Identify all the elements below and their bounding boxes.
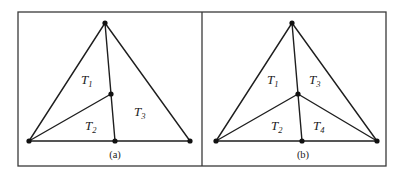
caption-a: (a)	[109, 149, 121, 161]
panel-b: T1 T3 T2 T4 (b)	[213, 20, 379, 161]
edge-apex-interior	[292, 23, 298, 94]
vertex-interior	[108, 91, 113, 96]
label-t1: T1	[267, 72, 278, 89]
edge-left-interior	[29, 94, 111, 141]
triangulation-figure: T1 T2 T3 (a) T1 T3 T2 T4 (b)	[0, 0, 404, 176]
vertex-bottom-mid	[112, 138, 117, 143]
panel-a: T1 T2 T3 (a)	[26, 20, 192, 161]
label-t3: T3	[309, 72, 320, 89]
label-t3: T3	[134, 104, 145, 121]
vertex-apex	[289, 20, 294, 25]
vertex-left	[26, 138, 31, 143]
edge-interior-bottom	[298, 94, 302, 141]
label-t4: T4	[313, 118, 325, 135]
vertex-right	[187, 138, 192, 143]
label-t2: T2	[271, 118, 283, 135]
vertex-interior	[295, 91, 300, 96]
edge-apex-right	[292, 23, 377, 141]
edge-apex-left	[216, 23, 292, 141]
label-t1: T1	[81, 72, 92, 89]
label-t2: T2	[85, 118, 97, 135]
edge-interior-right	[298, 94, 377, 141]
vertex-right	[374, 138, 379, 143]
edge-interior-bottom	[111, 94, 115, 141]
vertex-bottom-mid	[299, 138, 304, 143]
edge-apex-interior	[105, 23, 111, 94]
vertex-left	[213, 138, 218, 143]
edge-apex-right	[105, 23, 190, 141]
edge-apex-left	[29, 23, 105, 141]
vertex-apex	[102, 20, 107, 25]
caption-b: (b)	[297, 149, 310, 161]
edge-left-interior	[216, 94, 298, 141]
